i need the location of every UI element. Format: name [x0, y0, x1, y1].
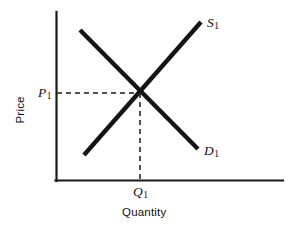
supply-demand-diagram: S1 D1 P1 Q1 Price Quantity [0, 0, 289, 230]
demand-label-text: D [204, 143, 214, 158]
quantity-tick-subscript: 1 [143, 190, 148, 200]
demand-label-subscript: 1 [214, 149, 219, 159]
quantity-tick-label: Q1 [133, 185, 148, 201]
price-tick-text: P [38, 85, 46, 100]
y-axis-title: Price [15, 96, 27, 123]
supply-curve-label: S1 [207, 16, 219, 32]
x-axis-title: Quantity [122, 207, 166, 219]
demand-curve-label: D1 [204, 144, 219, 160]
price-tick-subscript: 1 [47, 91, 52, 101]
supply-label-text: S [207, 15, 214, 30]
quantity-tick-text: Q [133, 184, 143, 199]
supply-label-subscript: 1 [214, 21, 219, 31]
price-tick-label: P1 [38, 86, 51, 102]
